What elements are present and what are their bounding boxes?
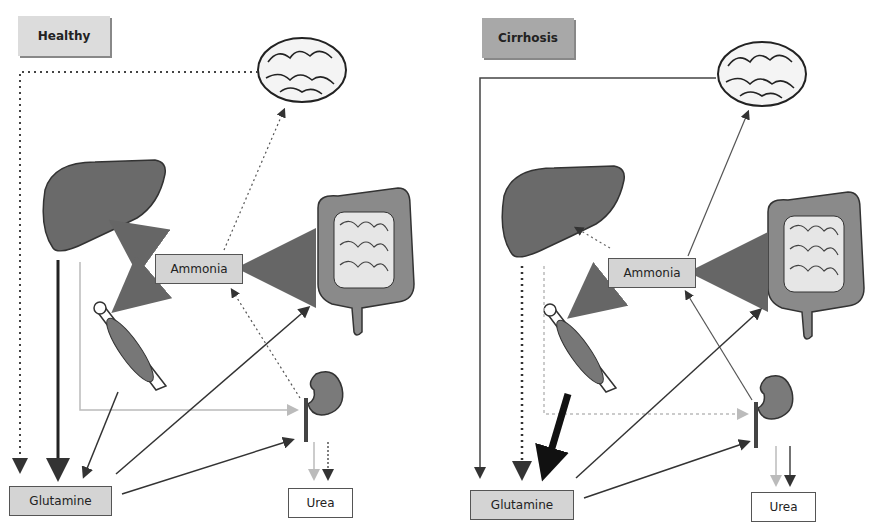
glutamine-to-kidney-arrow: [584, 442, 748, 498]
intestine-icon: [768, 192, 864, 339]
urea-box: Urea: [751, 492, 816, 522]
cirrhosis-title: Cirrhosis: [482, 18, 574, 58]
kidney-icon: [756, 376, 793, 448]
kidney-icon: [306, 372, 343, 442]
glutamine-to-intestine-arrow: [116, 308, 308, 474]
muscle-to-glutamine-arrow: [546, 394, 568, 468]
cirrhosis-panel: Cirrhosis Ammonia Glutamine Urea: [460, 0, 873, 531]
muscle-to-glutamine-arrow: [84, 392, 118, 476]
healthy-panel: Healthy Ammonia Glutamine Urea: [0, 0, 440, 531]
healthy-title: Healthy: [18, 16, 110, 56]
ammonia-box: Ammonia: [608, 258, 696, 288]
ammonia-to-liver-arrow: [120, 228, 148, 248]
glutamine-to-kidney-arrow: [122, 440, 292, 494]
intestine-icon: [318, 188, 414, 335]
ammonia-to-muscle-arrow: [122, 282, 148, 304]
ammonia-box: Ammonia: [155, 254, 243, 284]
kidney-to-ammonia-arrow: [686, 292, 752, 400]
glutamine-box: Glutamine: [470, 490, 574, 520]
urea-box: Urea: [288, 488, 353, 518]
ammonia-to-brain-arrow: [224, 110, 284, 250]
ammonia-to-brain-arrow: [688, 112, 748, 256]
muscle-icon: [94, 302, 166, 390]
ammonia-to-muscle-arrow: [578, 286, 608, 310]
muscle-icon: [544, 304, 616, 392]
liver-icon: [502, 166, 624, 257]
glutamine-box: Glutamine: [9, 486, 112, 516]
glutamine-to-intestine-arrow: [576, 310, 760, 478]
brain-icon: [718, 42, 806, 106]
brain-icon: [258, 38, 346, 102]
liver-icon: [43, 160, 165, 251]
